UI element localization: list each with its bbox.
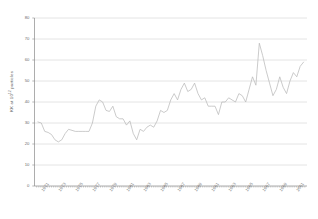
gridlines-group: [35, 18, 308, 165]
y-tick-label: 20: [16, 142, 30, 146]
y-tick-label: 40: [16, 100, 30, 104]
y-tick-label: 50: [16, 79, 30, 83]
data-series-line: [38, 43, 304, 142]
y-tick-label: 70: [16, 37, 30, 41]
y-tick-label: 30: [16, 121, 30, 125]
y-tick-label: 60: [16, 58, 30, 62]
y-tick-label: 0: [16, 184, 30, 188]
chart-container: KK at 1012 particles 01020304050607080 1…: [0, 0, 318, 219]
y-tick-label: 10: [16, 163, 30, 167]
y-tick-label: 80: [16, 16, 30, 20]
